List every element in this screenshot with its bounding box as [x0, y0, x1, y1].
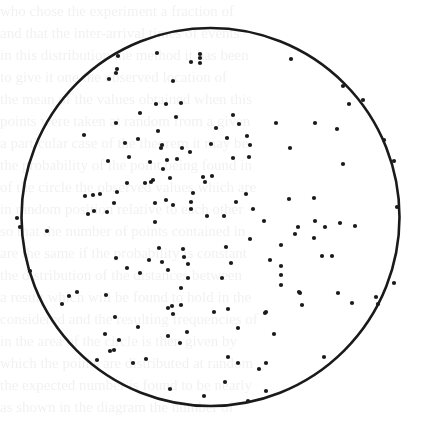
- scatter-point: [322, 355, 326, 359]
- scatter-point: [18, 225, 22, 229]
- scatter-point: [374, 295, 378, 299]
- scatter-point: [293, 232, 297, 236]
- scatter-point: [268, 258, 272, 262]
- scatter-point: [262, 219, 266, 223]
- scatter-point: [82, 133, 86, 137]
- scatter-point: [131, 361, 135, 365]
- scatter-point: [182, 255, 186, 259]
- scatter-point: [395, 205, 399, 209]
- scatter-point: [312, 196, 316, 200]
- scatter-point: [107, 77, 111, 81]
- scatter-point: [191, 191, 195, 195]
- scatter-point: [161, 167, 165, 171]
- scatter-point: [67, 294, 71, 298]
- scatter-point: [91, 193, 95, 197]
- scatter-point: [201, 175, 205, 179]
- scatter-point: [95, 358, 99, 362]
- scatter-point: [279, 243, 283, 247]
- scatter-point: [298, 291, 302, 295]
- scatter-point: [226, 355, 230, 359]
- scatter-point: [98, 192, 102, 196]
- scatter-point: [123, 141, 127, 145]
- scatter-point: [159, 146, 163, 150]
- scatter-point: [288, 146, 292, 150]
- scatter-point: [341, 162, 345, 166]
- scatter-point: [272, 332, 276, 336]
- scatter-point: [257, 367, 261, 371]
- scatter-point: [264, 361, 268, 365]
- scatter-point: [75, 290, 79, 294]
- scatter-point: [392, 159, 396, 163]
- scatter-point: [323, 225, 327, 229]
- scatter-point: [224, 245, 228, 249]
- scatter-point: [279, 283, 283, 287]
- scatter-point: [222, 214, 226, 218]
- scatter-point: [237, 122, 241, 126]
- scatter-point: [214, 126, 218, 130]
- scatter-point: [186, 262, 190, 266]
- scatter-point: [144, 357, 148, 361]
- scatter-point: [312, 236, 316, 240]
- scatter-point: [320, 254, 324, 258]
- scatter-point: [231, 156, 235, 160]
- scatter-point: [296, 225, 300, 229]
- scatter-point: [289, 57, 293, 61]
- scatter-point: [165, 158, 169, 162]
- scatter-point: [168, 387, 172, 391]
- scatter-point: [178, 341, 182, 345]
- scatter-point: [189, 207, 193, 211]
- scatter-point: [108, 349, 112, 353]
- scatter-point: [336, 291, 340, 295]
- scatter-point: [263, 311, 267, 315]
- scatter-point: [210, 174, 214, 178]
- scatter-point: [189, 200, 193, 204]
- scatter-point: [223, 380, 227, 384]
- scatter-point: [392, 281, 396, 285]
- scatter-point: [279, 273, 283, 277]
- scatter-point: [347, 102, 351, 106]
- scatter-point: [28, 269, 32, 273]
- scatter-point: [186, 276, 190, 280]
- scatter-point: [112, 348, 116, 352]
- scatter-point: [113, 315, 117, 319]
- scatter-point: [154, 102, 158, 106]
- scatter-point: [179, 303, 183, 307]
- scatter-point: [245, 134, 249, 138]
- scatter-point: [166, 306, 170, 310]
- scatter-point: [114, 256, 118, 260]
- scatter-point: [171, 312, 175, 316]
- scatter-point: [246, 399, 250, 403]
- scatter-point: [153, 220, 157, 224]
- scatter-circle-figure: [0, 0, 423, 431]
- scatter-point: [248, 143, 252, 147]
- scatter-point: [353, 224, 357, 228]
- scatter-point: [313, 121, 317, 125]
- scatter-point: [125, 181, 129, 185]
- scatter-point: [350, 301, 354, 305]
- scatter-point: [244, 192, 248, 196]
- scatter-point: [92, 209, 96, 213]
- scatter-point: [83, 194, 87, 198]
- scatter-point: [220, 276, 224, 280]
- scatter-point: [361, 98, 365, 102]
- scatter-point: [209, 142, 213, 146]
- scatter-point: [127, 155, 131, 159]
- scatter-point: [116, 54, 120, 58]
- scatter-point: [236, 361, 240, 365]
- scatter-point: [179, 286, 183, 290]
- scatter-point: [205, 214, 209, 218]
- scatter-point: [143, 181, 147, 185]
- scatter-point: [229, 261, 233, 265]
- scatter-point: [236, 326, 240, 330]
- scatter-point: [279, 264, 283, 268]
- scatter-point: [376, 302, 380, 306]
- scatter-point: [300, 303, 304, 307]
- scatter-point: [168, 176, 172, 180]
- scatter-point: [185, 330, 189, 334]
- scatter-point: [125, 266, 129, 270]
- scatter-point: [138, 111, 142, 115]
- scatter-point: [136, 325, 140, 329]
- scatter-point: [166, 268, 170, 272]
- scatter-point: [115, 190, 119, 194]
- scatter-point: [330, 254, 334, 258]
